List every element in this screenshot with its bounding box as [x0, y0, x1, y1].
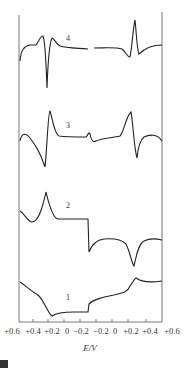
curve-2: [20, 192, 162, 266]
x-tick-label: −0.2: [93, 326, 108, 336]
voltammogram-plot: [0, 0, 187, 368]
curve-4: [20, 20, 162, 88]
curve-label-1: 1: [66, 293, 70, 302]
curve-1: [20, 278, 162, 316]
x-tick-label: 0: [65, 326, 69, 336]
curve-label-3: 3: [66, 121, 70, 130]
x-tick-label: +0.4: [25, 326, 40, 336]
x-axis-label: E/V: [83, 343, 97, 353]
x-ticks: [33, 319, 146, 322]
curve-3: [20, 111, 162, 167]
curve-label-4: 4: [66, 34, 70, 43]
x-tick-label: +0.2: [44, 326, 59, 336]
x-tick-label: 0: [113, 326, 117, 336]
x-tick-label: +0.2: [123, 326, 138, 336]
curve-label-2: 2: [66, 201, 70, 210]
x-tick-label: −0.2: [73, 326, 88, 336]
x-tick-label: +0.4: [142, 326, 157, 336]
corner-mark: [0, 360, 8, 368]
x-tick-label: +0.6: [4, 326, 19, 336]
x-tick-label: +0.6: [164, 326, 179, 336]
